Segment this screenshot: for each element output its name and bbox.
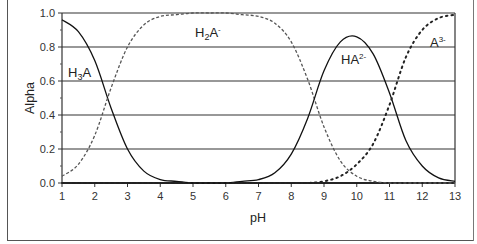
x-tick-label: 5 [190, 190, 196, 202]
y-axis-title: Alpha [23, 82, 37, 114]
x-tick-label: 1 [59, 190, 65, 202]
x-tick-label: 10 [351, 190, 363, 202]
x-tick-label: 13 [449, 190, 461, 202]
label-a3: A3- [430, 35, 446, 50]
label-ha2: HA2- [341, 52, 367, 67]
x-axis-ticks: 12345678910111213 [59, 183, 461, 202]
species-curves [62, 13, 455, 183]
x-tick-label: 12 [416, 190, 428, 202]
x-tick-label: 4 [157, 190, 163, 202]
curve-h2a [62, 13, 455, 183]
x-tick-label: 3 [124, 190, 130, 202]
y-tick-label: 0.6 [40, 75, 55, 87]
x-axis-title: pH [250, 211, 266, 225]
y-tick-label: 0.8 [40, 41, 55, 53]
y-tick-label: 1.0 [40, 7, 55, 19]
y-tick-label: 0.2 [40, 143, 55, 155]
y-tick-label: 0.4 [40, 109, 55, 121]
label-h2a: H2A- [195, 25, 221, 42]
gridlines [62, 13, 455, 183]
curve-h3a [62, 20, 455, 183]
x-tick-label: 9 [321, 190, 327, 202]
x-tick-label: 11 [384, 190, 395, 202]
curve-ha2 [62, 36, 455, 183]
label-h3a: H3A [68, 65, 91, 82]
curve-a3 [62, 15, 455, 183]
x-tick-label: 8 [288, 190, 294, 202]
x-tick-label: 2 [92, 190, 98, 202]
x-tick-label: 6 [223, 190, 229, 202]
y-tick-label: 0.0 [40, 177, 55, 189]
axes [62, 13, 455, 183]
x-tick-label: 7 [255, 190, 261, 202]
alpha-vs-ph-chart: 0.00.20.40.60.81.0 12345678910111213 Alp… [0, 0, 477, 244]
y-axis-ticks: 0.00.20.40.60.81.0 [40, 7, 62, 189]
